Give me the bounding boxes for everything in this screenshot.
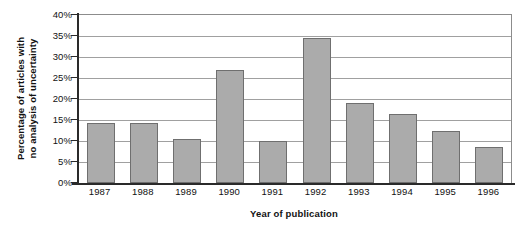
x-axis-tick-label: 1996 xyxy=(478,186,500,197)
bar xyxy=(389,114,417,183)
x-axis-tick-label: 1993 xyxy=(348,186,370,197)
x-axis-tick-label: 1995 xyxy=(434,186,456,197)
x-axis-tick-label: 1994 xyxy=(391,186,413,197)
y-axis-tickmark xyxy=(71,35,77,36)
bar xyxy=(303,38,331,183)
y-axis-tickmark xyxy=(71,14,77,15)
y-axis-tick-label: 30% xyxy=(53,51,72,62)
bar xyxy=(130,123,158,183)
bar xyxy=(346,103,374,183)
y-axis-tick-label: 5% xyxy=(58,156,72,167)
bar xyxy=(173,139,201,183)
x-axis-line xyxy=(72,183,515,185)
bar xyxy=(475,147,503,183)
y-axis-tickmark xyxy=(71,140,77,141)
y-axis-tickmark xyxy=(71,182,77,183)
y-axis-tick-label: 0% xyxy=(58,177,72,188)
bar xyxy=(87,123,115,183)
y-axis-tickmark xyxy=(71,161,77,162)
bars-group xyxy=(79,15,511,183)
x-axis-tick-label: 1987 xyxy=(89,186,111,197)
x-axis-title: Year of publication xyxy=(78,208,510,219)
y-axis-title-line-1: Percentage of articles with xyxy=(16,36,28,159)
y-axis-tick-label: 40% xyxy=(53,9,72,20)
y-axis-tick-label: 15% xyxy=(53,114,72,125)
plot-area xyxy=(78,14,512,184)
y-axis-tickmark xyxy=(71,98,77,99)
y-axis-title-line-2: no analysis of uncertainty xyxy=(27,36,39,159)
y-axis-tick-label: 10% xyxy=(53,135,72,146)
y-axis-tick-label: 20% xyxy=(53,93,72,104)
bar-chart-figure: Percentage of articles with no analysis … xyxy=(0,0,524,235)
y-axis-tick-label: 35% xyxy=(53,30,72,41)
x-axis-tick-label: 1989 xyxy=(175,186,197,197)
y-axis-tickmark xyxy=(71,56,77,57)
bar xyxy=(216,70,244,183)
x-axis-tick-label: 1988 xyxy=(132,186,154,197)
x-axis-tick-label: 1992 xyxy=(305,186,327,197)
y-axis-tick-label: 25% xyxy=(53,72,72,83)
y-axis-tickmark xyxy=(71,77,77,78)
y-axis-line xyxy=(77,13,79,184)
bar xyxy=(259,141,287,183)
x-axis-tick-label: 1990 xyxy=(218,186,240,197)
bar xyxy=(432,131,460,184)
y-axis-tickmark xyxy=(71,119,77,120)
x-axis-tick-labels: 1987198819891990199119921993199419951996 xyxy=(78,186,510,202)
x-axis-tick-label: 1991 xyxy=(262,186,284,197)
